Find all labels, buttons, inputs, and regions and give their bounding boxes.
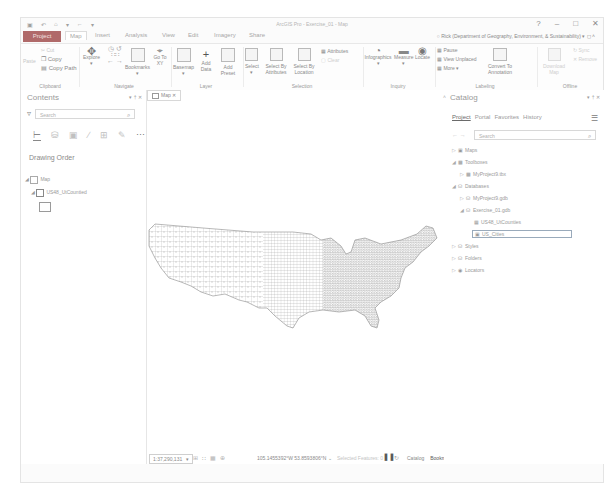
- select-by-attributes-button[interactable]: Select By Attributes: [263, 48, 289, 75]
- infographics-button[interactable]: ◔Infographics▾: [363, 48, 393, 66]
- more-icon[interactable]: ⋯: [136, 130, 145, 141]
- catalog-item-folders[interactable]: ▷⛁Folders: [452, 255, 482, 261]
- paste-button[interactable]: Paste: [23, 58, 36, 64]
- basemap-icon: [177, 48, 191, 62]
- tab-analysis[interactable]: Analysis: [125, 32, 147, 38]
- group-label: Layer: [171, 83, 241, 89]
- tab-edit[interactable]: Edit: [188, 32, 198, 38]
- coordinates-display[interactable]: 105.1455392°W 53.8593806°N ⌄: [257, 455, 332, 461]
- bookmarks-button[interactable]: Bookmarks▾: [125, 48, 150, 76]
- catalog-item-databases[interactable]: ◢⛁Databases: [452, 183, 489, 189]
- nav-arrows[interactable]: ← →: [452, 132, 466, 138]
- add-data-button[interactable]: +Add Data: [198, 48, 214, 72]
- grid-icon[interactable]: ▦: [210, 454, 216, 461]
- group-label: Selection: [243, 83, 361, 89]
- full-extent-icon[interactable]: ∷: [202, 454, 206, 461]
- ribbon-tabs: Project Map Insert Analysis View Edit Im…: [21, 31, 603, 43]
- measure-button[interactable]: ▬Measure▾: [394, 48, 413, 66]
- download-map-button[interactable]: Download Map: [541, 48, 567, 75]
- layer-map[interactable]: ◢ Map: [25, 176, 50, 184]
- collapse-icon[interactable]: ˄: [443, 94, 446, 100]
- maximize-button[interactable]: □: [573, 19, 578, 28]
- catalog-item-us48-counties[interactable]: ▦US48_UtCounties: [474, 219, 521, 225]
- user-account[interactable]: ○ Rick (Department of Geography, Environ…: [437, 33, 595, 39]
- tab-project[interactable]: Project: [23, 31, 61, 42]
- catalog-tab-history[interactable]: History: [523, 114, 542, 120]
- menu-icon[interactable]: ☰: [591, 114, 598, 123]
- catalog-item-toolboxes[interactable]: ◢▩Toolboxes: [452, 159, 488, 165]
- clear-button[interactable]: ▢ Clear: [321, 57, 339, 63]
- copy-path-button[interactable]: ▤ Copy Path: [41, 65, 77, 71]
- tab-catalog-pane[interactable]: Catalog: [407, 455, 424, 461]
- contents-search-input[interactable]: Search ⌕: [35, 109, 135, 119]
- tab-share[interactable]: Share: [249, 32, 265, 38]
- help-button[interactable]: ?: [536, 19, 540, 28]
- go-to-xy-button[interactable]: ⌖Go To XY: [153, 48, 167, 66]
- catalog-item-myproject-gdb[interactable]: ▷⛁MyProject9.gdb: [460, 195, 508, 201]
- catalog-item-exercise-gdb[interactable]: ◢⛁Exercise_01.gdb: [460, 207, 510, 213]
- catalog-pane-controls[interactable]: ▾ † ✕: [587, 94, 600, 100]
- convert-to-annotation-button[interactable]: Convert To Annotation: [483, 48, 517, 75]
- contents-pane: Contents ▾ † ✕ ▿ Search ⌕ ⊢ ⛁ ▣ ∕ ⊞ ✎ ⋯ …: [21, 90, 146, 464]
- minimize-button[interactable]: –: [555, 19, 559, 28]
- window-title: ArcGIS Pro - Exercise_01 - Map: [21, 21, 603, 27]
- search-icon[interactable]: ⌕: [588, 131, 591, 141]
- copy-button[interactable]: ❐ Copy: [41, 56, 62, 62]
- selection-icon[interactable]: ▣: [69, 130, 78, 141]
- tab-map[interactable]: Map: [65, 31, 87, 40]
- contents-title: Contents: [27, 93, 59, 102]
- nav-tools[interactable]: ◷ ↺∷∷← →: [107, 46, 123, 64]
- basemap-button[interactable]: Basemap▾: [173, 48, 194, 76]
- layer-symbol-swatch[interactable]: [39, 202, 51, 212]
- add-preset-button[interactable]: Add Preset: [218, 48, 238, 76]
- catalog-item-myproject-tbx[interactable]: ▷▩MyProject9.tbx: [460, 171, 506, 177]
- catalog-tab-favorites[interactable]: Favorites: [494, 114, 519, 120]
- catalog-tab-project[interactable]: Project: [452, 114, 471, 120]
- us-counties-map[interactable]: [143, 216, 447, 336]
- close-button[interactable]: ✕: [592, 19, 599, 28]
- tab-imagery[interactable]: Imagery: [214, 32, 236, 38]
- more-labeling-button[interactable]: ▦ More ▾: [437, 65, 459, 71]
- contents-view-toolbar: ⊢ ⛁ ▣ ∕ ⊞ ✎ ⋯: [33, 130, 145, 141]
- group-label: Offline: [537, 83, 603, 89]
- refresh-icon[interactable]: ↻: [394, 454, 399, 461]
- toolbox-file-icon: ▩: [466, 171, 473, 177]
- scale-selector[interactable]: 1:37,290,131 ▾: [149, 454, 193, 464]
- map-view[interactable]: Map ✕: [146, 90, 446, 464]
- fixed-zoom-icon[interactable]: ⊞: [193, 454, 198, 461]
- labeling-icon[interactable]: ✎: [118, 130, 126, 141]
- notifications-icon[interactable]: ◻ ˄: [587, 33, 595, 39]
- data-source-icon[interactable]: ⛁: [51, 130, 59, 141]
- catalog-item-maps[interactable]: ▷▣Maps: [452, 147, 477, 153]
- checkbox: [30, 176, 38, 184]
- locate-button[interactable]: ◉Locate: [415, 48, 430, 60]
- search-icon[interactable]: ⌕: [127, 110, 130, 120]
- explore-button[interactable]: ✥Explore▾: [83, 48, 100, 66]
- contents-pane-controls[interactable]: ▾ † ✕: [129, 94, 142, 100]
- snapping-icon[interactable]: ⊞: [100, 130, 108, 141]
- select-button[interactable]: Select▾: [245, 48, 259, 75]
- editing-icon[interactable]: ∕: [88, 130, 90, 141]
- remove-button[interactable]: ✕ Remove: [573, 56, 597, 62]
- catalog-item-styles[interactable]: ▷⛁Styles: [452, 243, 479, 249]
- drawing-order-icon[interactable]: ⊢: [33, 130, 41, 141]
- catalog-tab-portal[interactable]: Portal: [475, 114, 491, 120]
- catalog-item-locators[interactable]: ▷◉Locators: [452, 267, 484, 273]
- rotate-icon[interactable]: ⊕: [220, 454, 225, 461]
- layer-us48-counties[interactable]: ◢ US48_UtCountied: [31, 189, 87, 197]
- view-unplaced-button[interactable]: ▦ View Unplaced: [437, 56, 477, 62]
- group-navigate: ✥Explore▾ ◷ ↺∷∷← → Bookmarks▾ ⌖Go To XY …: [79, 44, 169, 90]
- maps-icon: ▣: [458, 147, 465, 153]
- cut-button[interactable]: ✂ Cut: [41, 47, 54, 53]
- map-tab[interactable]: Map ✕: [147, 90, 181, 101]
- attributes-button[interactable]: ▦ Attributes: [321, 48, 348, 54]
- filter-icon[interactable]: ▿: [27, 109, 31, 118]
- sync-button[interactable]: ↻ Sync: [573, 47, 590, 53]
- tab-insert[interactable]: Insert: [95, 32, 110, 38]
- group-layer: Basemap▾ +Add Data Add Preset Layer: [171, 44, 241, 90]
- tab-view[interactable]: View: [162, 32, 175, 38]
- pause-labels-button[interactable]: ▦ Pause: [437, 47, 458, 53]
- catalog-item-us-cities[interactable]: ▣US_Cities: [472, 230, 572, 238]
- catalog-search-input[interactable]: Search ⌕: [474, 130, 596, 140]
- select-by-location-button[interactable]: Select By Location: [291, 48, 317, 75]
